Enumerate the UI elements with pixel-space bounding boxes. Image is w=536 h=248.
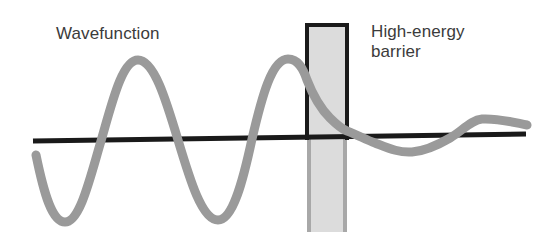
- quantum-tunnelling-figure: Wavefunction High-energybarrier: [0, 0, 536, 248]
- barrier-label-line-1: High-energy: [371, 22, 465, 41]
- barrier-label-line-2: barrier: [371, 42, 421, 61]
- high-energy-barrier-label: High-energybarrier: [371, 22, 465, 62]
- wavefunction-label: Wavefunction: [56, 24, 160, 44]
